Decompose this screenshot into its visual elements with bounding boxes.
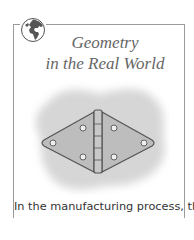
hinge-illustration	[30, 80, 170, 195]
feature-title-line2: in the Real World	[30, 54, 180, 74]
body-text: In the manufacturing process, the	[14, 200, 194, 213]
feature-title-line1: Geometry	[30, 33, 180, 53]
